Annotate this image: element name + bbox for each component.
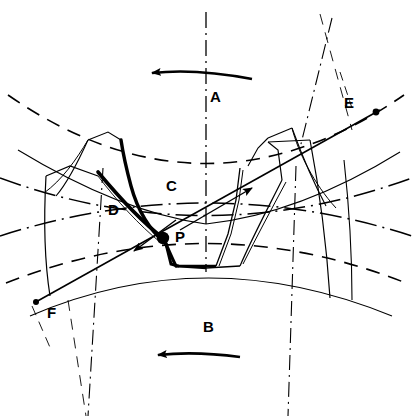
lower-gear-radial-line-right bbox=[288, 166, 296, 416]
label-point-f: F bbox=[47, 305, 56, 320]
label-tooth-c: C bbox=[166, 178, 177, 193]
label-tooth-d: D bbox=[108, 202, 119, 217]
label-gear-a: A bbox=[210, 89, 221, 104]
upper-gear-left-neighbour-top bbox=[88, 132, 121, 140]
upper-gear-neighbour-tooth-left-flank bbox=[248, 138, 268, 166]
line-of-action-arrow-to-e bbox=[180, 188, 252, 230]
upper-rotation-arrow bbox=[152, 71, 252, 79]
label-gear-b: B bbox=[203, 319, 214, 334]
lower-gear-right-tooth-top-land bbox=[268, 140, 310, 142]
lower-gear-root-arc bbox=[30, 278, 392, 316]
label-point-e: E bbox=[344, 95, 354, 110]
pitch-point-dot bbox=[157, 232, 169, 244]
point-e-dot bbox=[373, 109, 380, 116]
upper-gear-radial-line-right bbox=[300, 18, 332, 148]
upper-gear-thin-radial-right bbox=[320, 14, 352, 130]
point-f-dot bbox=[33, 299, 39, 305]
gear-mesh-diagram: A B C D E F P bbox=[0, 0, 412, 416]
gear-diagram-svg bbox=[0, 0, 412, 416]
lower-gear-right-tooth-right-flank bbox=[310, 140, 330, 298]
upper-tooth-right-flank-inner bbox=[219, 170, 243, 266]
lower-gear-thin-radial-left bbox=[68, 300, 86, 416]
lower-gear-right-tooth-left-flank bbox=[240, 180, 282, 266]
upper-gear-neighbour-tooth-top bbox=[268, 128, 292, 138]
lower-gear-right-tooth-left-flank2 bbox=[243, 182, 286, 264]
upper-tooth-contact-flank bbox=[121, 140, 166, 244]
lower-gear-right-tooth-tip bbox=[268, 142, 282, 180]
upper-tooth-right-flank bbox=[216, 168, 240, 266]
lower-rotation-arrow bbox=[158, 353, 240, 357]
label-pitch-point-p: P bbox=[175, 229, 185, 244]
